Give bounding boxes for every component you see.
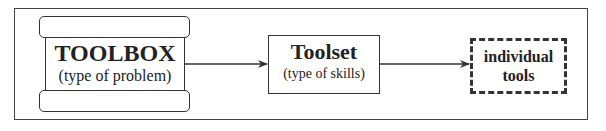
connector-arrows xyxy=(0,0,606,131)
